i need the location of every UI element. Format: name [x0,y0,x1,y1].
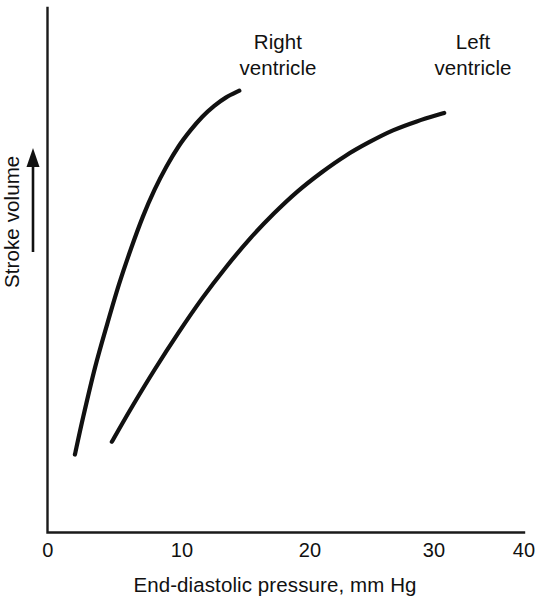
x-tick-label-30: 30 [423,540,446,560]
axis-spine [48,8,525,533]
curve-left-ventricle [112,113,444,442]
annotation-right-ventricle-line1: Right [218,29,338,55]
x-tick-label-10: 10 [171,540,194,560]
y-axis-arrow-icon [27,148,40,252]
y-axis-title: Stroke volume [0,78,24,288]
annotation-left-ventricle-line1: Left [415,29,531,55]
x-tick-label-40: 40 [513,540,536,560]
annotation-left-ventricle: Left ventricle [415,29,531,81]
chart-canvas [0,0,550,610]
curve-right-ventricle [75,91,239,455]
x-tick-label-0: 0 [42,540,53,560]
x-axis-title: End-diastolic pressure, mm Hg [0,573,550,597]
annotation-left-ventricle-line2: ventricle [415,55,531,81]
x-tick-label-20: 20 [299,540,322,560]
annotation-right-ventricle-line2: ventricle [218,55,338,81]
annotation-right-ventricle: Right ventricle [218,29,338,81]
chart-figure: 0 10 20 30 40 End-diastolic pressure, mm… [0,0,550,610]
